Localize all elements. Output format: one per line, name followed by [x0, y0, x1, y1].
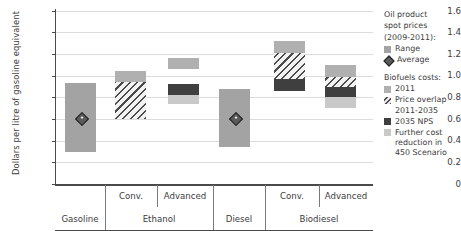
legend-heading-oil-line2: spot prices	[384, 21, 461, 31]
x-group-ethanol: Ethanol	[105, 207, 213, 230]
x-axis-separator	[265, 185, 266, 207]
bar-segment-2011	[168, 58, 199, 69]
y-tick-label: 0	[437, 180, 461, 189]
bar-segment-2011	[325, 65, 356, 77]
legend-label-2035-nps: 2035 NPS	[395, 117, 461, 127]
bar-biodiesel-advanced[interactable]	[325, 65, 356, 108]
legend-item-2035-nps[interactable]: 2035 NPS	[384, 117, 461, 127]
x-sublabel-ethanol-conv: Conv.	[105, 185, 157, 207]
bar-segment-2035-nps	[274, 79, 305, 91]
x-axis-separator	[105, 207, 106, 230]
legend-item-price-overlap[interactable]: Price overlap 2011-2035	[384, 95, 461, 116]
gridline	[56, 119, 373, 120]
x-axis-separator	[157, 185, 158, 207]
y-axis-line	[55, 9, 56, 186]
y-axis-title: Dollars per litre of gasoline equivalent	[11, 3, 21, 183]
plot-area	[56, 11, 373, 184]
x-group-diesel: Diesel	[213, 207, 265, 230]
x-sublabel-diesel	[213, 185, 265, 207]
legend-swatch-2011-icon	[384, 86, 391, 93]
x-sublabel-biodiesel-advanced: Advanced	[319, 185, 373, 207]
x-group-biodiesel: Biodiesel	[265, 207, 373, 230]
x-sublabel-biodiesel-conv: Conv.	[265, 185, 319, 207]
legend-item-average[interactable]: Average	[384, 55, 461, 65]
gridline	[56, 162, 373, 163]
bar-segment-price-overlap	[325, 77, 356, 87]
bar-segment-further-reduction	[325, 97, 356, 108]
legend-swatch-range-icon	[384, 46, 391, 53]
x-group-gasoline: Gasoline	[55, 207, 105, 230]
legend-label-2011: 2011	[395, 84, 461, 94]
bar-ethanol-advanced[interactable]	[168, 58, 199, 104]
x-sublabel-ethanol-advanced: Advanced	[157, 185, 213, 207]
bar-gasoline[interactable]	[65, 83, 96, 152]
bar-biodiesel-conv[interactable]	[274, 41, 305, 91]
legend-heading-oil-line3: (2009-2011):	[384, 33, 461, 43]
legend-label-further-line3: 450 Scenario	[395, 148, 447, 157]
y-tick-label: 0.2	[437, 158, 461, 167]
x-axis-separator	[319, 185, 320, 207]
legend-heading-biofuels: Biofuels costs:	[384, 73, 461, 83]
legend-swatch-further-reduction-icon	[384, 129, 391, 136]
bar-segment-2011	[115, 71, 146, 82]
gridline	[56, 141, 373, 142]
chart-legend: Oil product spot prices (2009-2011): Ran…	[384, 10, 461, 159]
legend-item-range[interactable]: Range	[384, 44, 461, 54]
bar-segment-price-overlap	[274, 53, 305, 79]
chart-container: Dollars per litre of gasoline equivalent…	[0, 0, 461, 231]
bar-segment-2035-nps	[325, 87, 356, 97]
x-axis-separator	[213, 185, 214, 207]
legend-swatch-2035-nps-icon	[384, 118, 391, 125]
x-axis-separator	[213, 207, 214, 230]
legend-item-further-reduction[interactable]: Further cost reduction in 450 Scenario	[384, 128, 461, 159]
bar-segment-price-overlap	[115, 82, 146, 119]
gridline	[56, 11, 373, 12]
legend-label-price-overlap-line2: 2011-2035	[395, 106, 438, 115]
x-axis-separator	[265, 207, 266, 230]
bar-segment-further-reduction	[168, 95, 199, 104]
legend-label-average: Average	[397, 55, 461, 65]
gridline	[56, 32, 373, 33]
legend-label-further-line1: Further cost	[395, 128, 442, 137]
legend-label-price-overlap-line1: Price overlap	[395, 95, 446, 104]
legend-heading-oil-line1: Oil product	[384, 10, 461, 20]
x-axis-separator	[105, 185, 106, 207]
bar-diesel[interactable]	[219, 89, 250, 147]
bar-segment-2011	[274, 41, 305, 53]
legend-item-2011[interactable]: 2011	[384, 84, 461, 94]
bar-ethanol-conv[interactable]	[115, 71, 146, 119]
x-axis-group-row: Gasoline Ethanol Diesel Biodiesel	[55, 207, 373, 231]
legend-spacer	[384, 66, 461, 73]
x-sublabel-gasoline	[55, 185, 105, 207]
legend-label-further-line2: reduction in	[395, 138, 442, 147]
gridline	[56, 54, 373, 55]
bar-segment-2035-nps	[168, 84, 199, 95]
x-axis-sublabel-row: Conv. Advanced Conv. Advanced	[55, 185, 373, 207]
legend-label-range: Range	[395, 44, 461, 54]
legend-swatch-price-overlap-icon	[384, 97, 391, 104]
